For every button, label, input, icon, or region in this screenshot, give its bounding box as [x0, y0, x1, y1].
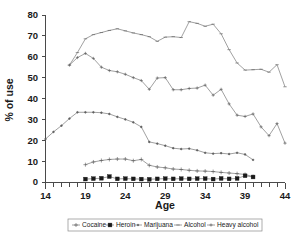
data-point-marker — [219, 177, 223, 181]
y-tick-label: 40 — [27, 93, 38, 104]
chart-legend: CocaineHeroinMarijuanaAlcoholHeavy alcoh… — [68, 219, 262, 231]
data-point-marker — [69, 118, 71, 120]
use-by-age-line-chart: 01020304050607080 % of use 1419242934394… — [0, 0, 297, 243]
data-point-marker — [235, 177, 239, 181]
x-tick-group — [46, 183, 286, 189]
data-point-marker — [137, 224, 139, 226]
y-tick-label: 0 — [33, 176, 38, 187]
data-point-marker — [188, 148, 190, 150]
data-point-marker — [204, 152, 206, 154]
data-point-marker — [93, 111, 95, 113]
x-tick-label: 19 — [80, 190, 91, 201]
data-point-marker — [164, 145, 166, 147]
data-point-marker — [85, 111, 87, 113]
series-path — [69, 22, 285, 87]
data-point-marker — [132, 121, 134, 123]
data-point-marker — [148, 141, 150, 143]
data-point-marker — [109, 113, 111, 115]
y-tick-label: 50 — [27, 72, 38, 83]
data-point-marker — [131, 177, 135, 181]
data-point-marker — [179, 177, 183, 181]
data-point-marker — [243, 174, 247, 178]
data-point-marker — [196, 149, 198, 151]
y-tick-label: 70 — [27, 30, 38, 41]
x-tick-label: 34 — [200, 190, 211, 201]
chart-canvas: 01020304050607080 % of use 1419242934394… — [0, 0, 297, 243]
series-path — [85, 159, 253, 177]
data-point-marker — [84, 177, 88, 181]
series-alcohol — [68, 22, 287, 87]
data-point-marker — [155, 177, 159, 181]
data-point-marker — [101, 112, 103, 114]
data-point-marker — [115, 177, 119, 181]
x-axis-title: Age — [155, 199, 175, 211]
data-point-marker — [220, 152, 222, 154]
data-point-marker — [228, 153, 230, 155]
data-point-marker — [108, 223, 112, 227]
data-point-marker — [180, 148, 182, 150]
y-tick-label: 10 — [27, 156, 38, 167]
data-point-marker — [92, 177, 96, 181]
y-axis-title: % of use — [3, 78, 15, 121]
legend-item-label: Heroin — [116, 221, 136, 228]
data-point-marker — [61, 125, 63, 127]
x-tick-label: 24 — [120, 190, 131, 201]
legend-item-label: Marijuana — [144, 221, 173, 229]
series-path — [69, 53, 285, 143]
data-point-marker — [124, 119, 126, 121]
series-marijuana — [45, 111, 254, 160]
legend-item-label: Heavy alcohol — [217, 221, 259, 229]
data-point-marker — [244, 154, 246, 156]
data-point-marker — [107, 175, 111, 179]
data-point-marker — [156, 143, 158, 145]
data-point-marker — [99, 176, 103, 180]
data-point-marker — [163, 177, 167, 181]
data-point-marker — [45, 138, 47, 140]
data-point-marker — [171, 177, 175, 181]
y-tick-label: 60 — [27, 51, 38, 62]
data-point-marker — [172, 147, 174, 149]
x-axis-group: 14192429343944 Age — [40, 183, 291, 212]
data-point-marker — [187, 177, 191, 181]
data-series-layer — [45, 22, 287, 182]
data-point-marker — [117, 116, 119, 118]
y-tick-label: 20 — [27, 135, 38, 146]
x-tick-label: 14 — [40, 190, 51, 201]
y-tick-group — [42, 15, 46, 182]
data-point-marker — [236, 152, 238, 154]
legend-item-label: Cocaine — [82, 221, 107, 228]
data-point-marker — [123, 177, 127, 181]
y-axis-group: 01020304050607080 % of use — [3, 9, 46, 187]
y-tick-labels: 01020304050607080 — [27, 9, 38, 187]
x-tick-label: 44 — [280, 190, 291, 201]
data-point-marker — [147, 177, 151, 181]
x-tick-label: 39 — [240, 190, 251, 201]
data-point-marker — [212, 153, 214, 155]
y-tick-label: 30 — [27, 114, 38, 125]
series-heavy-alcohol — [68, 52, 287, 145]
data-point-marker — [139, 177, 143, 181]
data-point-marker — [53, 131, 55, 133]
legend-item-label: Alcohol — [184, 221, 206, 228]
data-point-marker — [251, 175, 255, 179]
data-point-marker — [252, 159, 254, 161]
data-point-marker — [211, 177, 215, 181]
data-point-marker — [203, 177, 207, 181]
data-point-marker — [77, 111, 79, 113]
y-tick-label: 80 — [27, 9, 38, 20]
data-point-marker — [195, 177, 199, 181]
data-point-marker — [227, 177, 231, 181]
data-point-marker — [140, 126, 142, 128]
